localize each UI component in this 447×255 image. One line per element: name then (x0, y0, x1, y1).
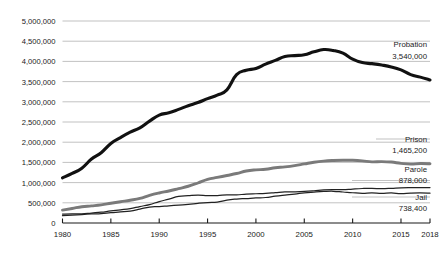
x-axis-tick-label: 1985 (102, 230, 120, 239)
series-value-prison: 1,465,200 (392, 146, 427, 155)
x-axis-tick-label: 1995 (199, 230, 217, 239)
y-axis-tick-labels: 0500,0001,000,0001,500,0002,000,0002,500… (22, 17, 56, 228)
x-axis-tick-label: 1980 (54, 230, 72, 239)
series-label-prison: Prison (405, 135, 427, 144)
y-axis-tick-label: 500,000 (28, 199, 55, 208)
y-axis-tick-label: 0 (51, 219, 55, 228)
series-value-parole: 878,000 (399, 176, 428, 185)
x-axis-tick-label: 2005 (296, 230, 314, 239)
y-axis-tick-label: 3,500,000 (22, 78, 56, 87)
data-series-group (63, 49, 431, 215)
series-value-probation: 3,540,000 (392, 52, 427, 61)
series-line-probation (63, 49, 431, 177)
x-axis-tick-label: 2000 (247, 230, 265, 239)
y-axis-tick-label: 1,500,000 (22, 158, 56, 167)
series-label-probation: Probation (394, 40, 427, 49)
x-axis-tick-label: 2010 (344, 230, 362, 239)
gridlines-group (63, 21, 431, 203)
x-axis-tick-label: 1990 (151, 230, 169, 239)
x-axis-tick-label: 2015 (392, 230, 410, 239)
x-axis-tick-labels: 198019851990199520002005201020152018 (54, 230, 439, 239)
y-axis-tick-label: 4,000,000 (22, 57, 56, 66)
y-axis-tick-label: 5,000,000 (22, 17, 56, 26)
chart-canvas: 0500,0001,000,0001,500,0002,000,0002,500… (0, 0, 447, 255)
line-chart: 0500,0001,000,0001,500,0002,000,0002,500… (0, 0, 447, 255)
y-axis-tick-label: 2,000,000 (22, 138, 56, 147)
x-axis-tick-label: 2018 (421, 230, 438, 239)
series-value-jail: 738,400 (399, 204, 428, 213)
series-label-parole: Parole (404, 165, 427, 174)
x-axis-group (63, 219, 431, 224)
y-axis-tick-label: 2,500,000 (22, 118, 56, 127)
series-label-jail: Jail (415, 193, 427, 202)
y-axis-tick-label: 4,500,000 (22, 37, 56, 46)
y-axis-tick-label: 3,000,000 (22, 98, 56, 107)
y-axis-tick-label: 1,000,000 (22, 179, 56, 188)
